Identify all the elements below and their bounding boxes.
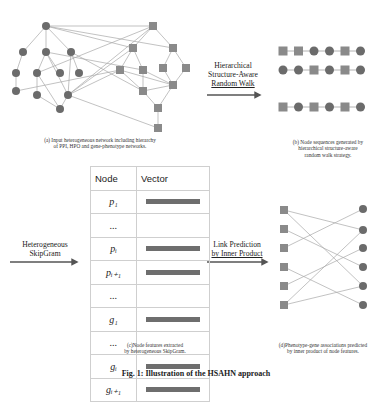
table-row: g₁ xyxy=(91,308,210,332)
label-line: Hierarchical xyxy=(200,61,266,70)
figure-caption: Fig. 1: Illustration of the HSAHN approa… xyxy=(0,369,392,378)
gene-node xyxy=(356,47,365,56)
table-row: pᵢ xyxy=(91,237,210,261)
phenotype-node xyxy=(279,47,288,56)
phenotype-node xyxy=(279,103,288,112)
caption-line: by heterogeneous SkipGram. xyxy=(100,348,210,354)
vector-cell xyxy=(137,308,210,332)
panel-a-caption: (a) Input heterogeneous network includin… xyxy=(20,137,180,150)
node-sequences xyxy=(280,51,365,107)
table-row: p₁ xyxy=(91,190,210,214)
label-line: Link Prediction xyxy=(200,240,274,249)
panel-c-caption: (c)Node features extracted by heterogene… xyxy=(100,342,210,355)
phenotype-node xyxy=(341,66,350,75)
table-row: ... xyxy=(91,214,210,238)
gene-node xyxy=(325,103,334,112)
column-header-node: Node xyxy=(91,167,137,191)
feature-vector-bar xyxy=(146,364,200,369)
vector-cell xyxy=(137,378,210,402)
node-cell: gᵢ₊₁ xyxy=(91,378,137,402)
gene-node xyxy=(294,103,303,112)
gene-node xyxy=(356,66,365,75)
vector-cell xyxy=(137,284,210,308)
link-prediction-label: Link Prediction by Inner Product xyxy=(200,240,274,258)
gene-node xyxy=(310,47,319,56)
label-line: Heterogeneous xyxy=(8,240,82,249)
node-cell: pᵢ xyxy=(91,237,137,261)
phenotype-node xyxy=(294,47,303,56)
gene-node xyxy=(325,47,334,56)
feature-vector-bar xyxy=(146,270,200,275)
panel-d-caption: (d)Phenotype-gene associations predicted… xyxy=(258,342,388,355)
phenotype-node xyxy=(310,103,319,112)
node-cell: ... xyxy=(91,214,137,238)
feature-vector-bar xyxy=(146,199,200,204)
node-feature-table: Node Vector p₁...pᵢpᵢ₊₁...g₁...gᵢgᵢ₊₁ xyxy=(90,166,210,402)
feature-vector-bar xyxy=(146,387,200,392)
vector-cell xyxy=(137,214,210,238)
phenotype-node xyxy=(341,47,350,56)
caption-line: of PPI, HPO and gene-phenotype networks. xyxy=(20,143,180,149)
table-row: pᵢ₊₁ xyxy=(91,261,210,285)
gene-node xyxy=(279,66,288,75)
vector-cell xyxy=(137,261,210,285)
phenotype-node xyxy=(341,103,350,112)
feature-vector-bar xyxy=(146,317,200,322)
table-row: gᵢ₊₁ xyxy=(91,378,210,402)
node-cell: g₁ xyxy=(91,308,137,332)
feature-vector-bar xyxy=(146,246,200,251)
node-cell: p₁ xyxy=(91,190,137,214)
gene-node xyxy=(325,66,334,75)
node-cell: ... xyxy=(91,284,137,308)
vector-cell xyxy=(137,190,210,214)
gene-node xyxy=(356,103,365,112)
caption-line: random walk strategy. xyxy=(272,152,384,158)
phenotype-node xyxy=(310,66,319,75)
vector-cell xyxy=(137,237,210,261)
label-line: Structure-Aware xyxy=(200,70,266,79)
caption-line: by inner product of node features. xyxy=(258,348,388,354)
table-row: ... xyxy=(91,284,210,308)
label-line: SkipGram xyxy=(8,249,82,258)
random-walk-label: Hierarchical Structure-Aware Random Walk xyxy=(200,61,266,89)
column-header-vector: Vector xyxy=(137,167,210,191)
panel-b-caption: (b) Node sequences generated by hierarch… xyxy=(272,139,384,158)
gene-node xyxy=(294,66,303,75)
node-cell: pᵢ₊₁ xyxy=(91,261,137,285)
label-line: Random Walk xyxy=(200,79,266,88)
skipgram-label: Heterogeneous SkipGram xyxy=(8,240,82,258)
label-line: by Inner Product xyxy=(200,249,274,258)
